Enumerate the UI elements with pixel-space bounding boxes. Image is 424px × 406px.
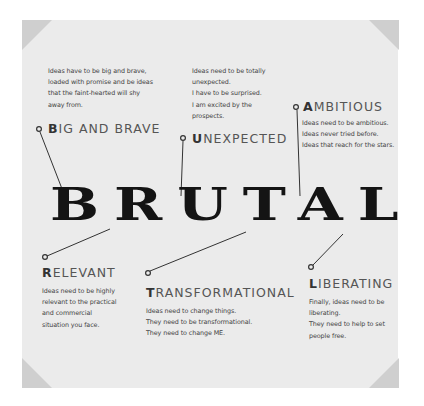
description-line: Ideas need to be totally <box>192 66 292 77</box>
heading-initial: U <box>192 131 203 146</box>
node-unexpected-icon <box>181 136 186 141</box>
heading-initial: A <box>303 99 314 114</box>
description-line: Ideas need to be highly <box>42 286 142 297</box>
heading-rest: MBITIOUS <box>314 99 383 114</box>
heading-initial: L <box>309 276 318 291</box>
description-line: I have to be surprised. <box>192 88 292 99</box>
heading-rest: NEXPECTED <box>203 131 287 146</box>
description-line: liberating. <box>309 308 409 319</box>
description-line: that the faint-hearted will shy <box>48 88 168 99</box>
description-relevant: Ideas need to be highly relevant to the … <box>42 286 142 331</box>
node-liberating-icon <box>309 265 314 270</box>
description-unexpected: Ideas need to be totally unexpected. I h… <box>192 66 292 122</box>
connector-transformational <box>150 232 246 271</box>
node-relevant-icon <box>43 255 48 260</box>
node-ambitious-icon <box>294 105 299 110</box>
node-big-and-brave-icon <box>37 127 42 132</box>
heading-unexpected: UNEXPECTED <box>192 131 287 146</box>
description-big-and-brave: Ideas have to be big and brave, loaded w… <box>48 66 168 111</box>
heading-relevant: RELEVANT <box>42 265 116 280</box>
description-line: and commercial <box>42 308 142 319</box>
heading-rest: IBERATING <box>318 276 393 291</box>
heading-big-and-brave: BIG AND BRAVE <box>48 121 160 136</box>
node-transformational-icon <box>146 271 151 276</box>
heading-initial: T <box>146 285 156 300</box>
description-liberating: Finally, ideas need to be liberating. Th… <box>309 297 409 342</box>
description-line: Ideas need to change things. <box>146 306 276 317</box>
description-line: They need to be transformational. <box>146 317 276 328</box>
description-line: Ideas need to be ambitious. <box>302 118 412 129</box>
title-brutal: BRUTAL <box>50 181 390 228</box>
description-line: They need to help to set <box>309 319 409 330</box>
description-line: loaded with promise and be ideas <box>48 77 168 88</box>
connector-liberating <box>313 234 343 265</box>
description-line: situation you face. <box>42 320 142 331</box>
heading-rest: IG AND BRAVE <box>59 121 161 136</box>
description-ambitious: Ideas need to be ambitious. Ideas never … <box>302 118 412 152</box>
description-line: They need to change ME. <box>146 328 276 339</box>
heading-liberating: LIBERATING <box>309 276 393 291</box>
description-line: Ideas never tried before. <box>302 129 412 140</box>
description-line: people free. <box>309 331 409 342</box>
heading-ambitious: AMBITIOUS <box>303 99 383 114</box>
description-line: Ideas that reach for the stars. <box>302 140 412 151</box>
heading-initial: R <box>42 265 53 280</box>
description-line: Finally, ideas need to be <box>309 297 409 308</box>
description-line: unexpected. <box>192 77 292 88</box>
description-line: Ideas have to be big and brave, <box>48 66 168 77</box>
heading-rest: ELEVANT <box>53 265 116 280</box>
description-line: prospects. <box>192 111 292 122</box>
heading-transformational: TRANSFORMATIONAL <box>146 285 295 300</box>
heading-initial: B <box>48 121 59 136</box>
description-transformational: Ideas need to change things. They need t… <box>146 306 276 340</box>
connector-relevant <box>47 229 110 256</box>
description-line: away from. <box>48 100 168 111</box>
description-line: relevant to the practical <box>42 297 142 308</box>
heading-rest: RANSFORMATIONAL <box>156 285 295 300</box>
description-line: I am excited by the <box>192 100 292 111</box>
